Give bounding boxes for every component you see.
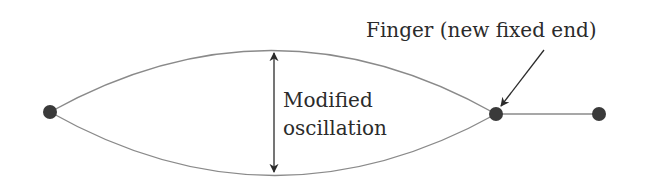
oscillation-label-line2: oscillation [283, 116, 387, 140]
right-end-node [592, 107, 606, 121]
oscillation-lower-curve [50, 112, 496, 176]
finger-pointer-arrow [501, 50, 544, 106]
oscillation-label-line1: Modified [283, 88, 373, 112]
string-oscillation-diagram: Finger (new fixed end) Modified oscillat… [0, 0, 648, 187]
left-fixed-end-node [43, 105, 57, 119]
finger-label: Finger (new fixed end) [366, 18, 597, 42]
oscillation-upper-curve [50, 50, 496, 114]
finger-node [489, 107, 503, 121]
